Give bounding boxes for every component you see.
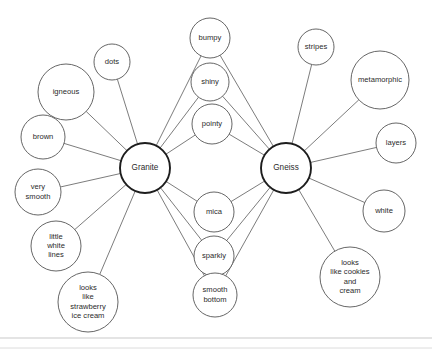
node-label-layers: layers — [386, 138, 406, 147]
hubs-layer: GraniteGneiss — [120, 143, 311, 193]
edge-looks-like-cookies-and-cream-to-gneiss — [299, 190, 335, 252]
node-label-shiny: shiny — [201, 77, 219, 86]
node-label-stripes: stripes — [305, 42, 328, 51]
node-sparkly[interactable]: sparkly — [194, 236, 234, 276]
node-pointy[interactable]: pointy — [192, 104, 232, 144]
edge-igneous-to-granite — [86, 111, 127, 150]
edge-dots-to-granite — [117, 79, 137, 144]
hub-label-granite: Granite — [132, 163, 159, 172]
node-very-smooth[interactable]: verysmooth — [15, 169, 61, 215]
node-label-white: white — [374, 206, 393, 215]
node-igneous[interactable]: igneous — [38, 64, 94, 120]
node-label-mica: mica — [206, 207, 223, 216]
nodes-layer: dotsigneousbrownverysmoothlittlewhitelin… — [15, 18, 416, 332]
node-metamorphic[interactable]: metamorphic — [351, 51, 409, 109]
frame-layer — [0, 338, 432, 348]
node-dots[interactable]: dots — [94, 44, 130, 80]
edge-pointy-to-granite — [166, 135, 195, 154]
node-mica[interactable]: mica — [194, 192, 234, 232]
node-label-little-white-lines: littlewhitelines — [46, 232, 65, 260]
node-white[interactable]: white — [363, 190, 405, 232]
concept-map-svg: dotsigneousbrownverysmoothlittlewhitelin… — [0, 0, 432, 353]
edge-little-white-lines-to-granite — [75, 184, 126, 229]
node-label-smooth-bottom: smoothbottom — [203, 285, 228, 303]
node-label-pointy: pointy — [202, 119, 222, 128]
edge-mica-to-granite — [166, 181, 197, 201]
node-label-metamorphic: metamorphic — [358, 75, 402, 84]
diagram-canvas: dotsigneousbrownverysmoothlittlewhitelin… — [0, 0, 432, 353]
node-looks-like-strawberry-ice-cream[interactable]: lookslikestrawberryice cream — [58, 272, 118, 332]
edge-brown-to-granite — [64, 143, 121, 160]
node-label-bumpy: bumpy — [199, 33, 222, 42]
node-label-igneous: igneous — [53, 87, 80, 96]
node-shiny[interactable]: shiny — [191, 63, 229, 101]
hub-label-gneiss: Gneiss — [273, 163, 298, 172]
node-little-white-lines[interactable]: littlewhitelines — [31, 221, 81, 271]
edge-layers-to-gneiss — [310, 147, 376, 162]
edge-stripes-to-gneiss — [292, 64, 312, 143]
node-bumpy[interactable]: bumpy — [190, 18, 230, 58]
node-label-sparkly: sparkly — [202, 251, 226, 260]
node-layers[interactable]: layers — [376, 123, 416, 163]
hub-granite[interactable]: Granite — [120, 143, 170, 193]
node-looks-like-cookies-and-cream[interactable]: lookslike cookiesandcream — [320, 247, 380, 307]
node-smooth-bottom[interactable]: smoothbottom — [193, 273, 237, 317]
node-stripes[interactable]: stripes — [298, 29, 334, 65]
node-label-brown: brown — [33, 132, 54, 141]
edge-white-to-gneiss — [309, 178, 365, 203]
node-brown[interactable]: brown — [21, 115, 65, 159]
edge-very-smooth-to-granite — [60, 173, 120, 187]
edge-mica-to-gneiss — [231, 181, 265, 202]
node-label-dots: dots — [105, 57, 120, 66]
edge-metamorphic-to-gneiss — [304, 100, 359, 151]
hub-gneiss[interactable]: Gneiss — [261, 143, 311, 193]
